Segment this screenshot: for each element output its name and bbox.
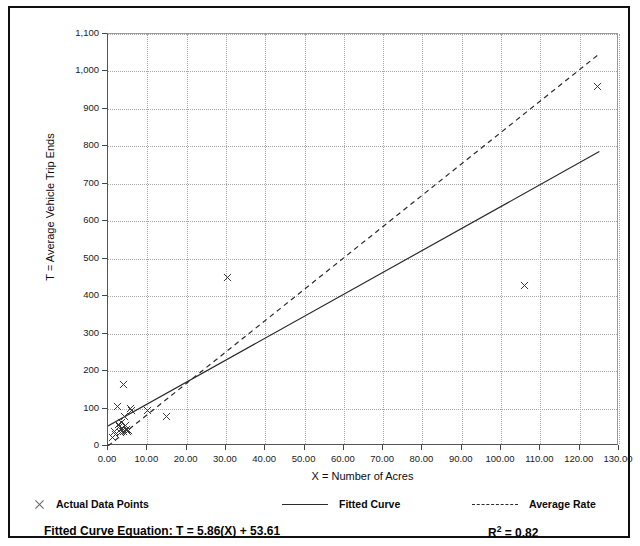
trend-lines-svg — [108, 34, 619, 446]
y-axis-tick-label-wrap: 1,100 — [48, 28, 99, 38]
x-axis-tick-label-wrap: 20.00 — [164, 453, 208, 465]
x-axis-tick-label: 40.00 — [242, 453, 286, 465]
y-axis-tick-label: 1,100 — [75, 28, 99, 38]
x-axis-tick-label-wrap: 30.00 — [203, 453, 247, 465]
fitted-curve-equation: Fitted Curve Equation: T = 5.86(X) + 53.… — [44, 524, 280, 538]
x-axis-tick-label: 90.00 — [439, 453, 483, 465]
chart-figure: 01002003004005006007008009001,0001,100 0… — [0, 0, 640, 546]
y-axis-tick-label: 0 — [94, 440, 99, 450]
figure-border: 01002003004005006007008009001,0001,100 0… — [8, 6, 630, 538]
x-marker-icon — [34, 499, 45, 510]
x-axis-tick-label: 30.00 — [203, 453, 247, 465]
x-axis-tick-label-wrap: 10.00 — [124, 453, 168, 465]
y-axis-tick-label: 100 — [83, 403, 99, 413]
fitted-curve-line — [108, 152, 599, 426]
x-axis-tick-label: 100.00 — [478, 453, 522, 465]
x-axis-tick-label-wrap: 110.00 — [517, 453, 561, 465]
y-axis-tick-label: 600 — [83, 215, 99, 225]
x-axis-tick-label-wrap: 130.00 — [596, 453, 640, 465]
y-axis-tick-label: 1,000 — [75, 65, 99, 75]
y-axis-tick-label-wrap: 200 — [48, 365, 99, 375]
legend-label: Average Rate — [529, 498, 596, 510]
legend-item[interactable]: Average Rate — [472, 492, 596, 516]
y-axis-tick-label-wrap: 300 — [48, 328, 99, 338]
x-axis-tick-label: 80.00 — [399, 453, 443, 465]
y-axis-tick-label: 300 — [83, 328, 99, 338]
x-axis-title: X = Number of Acres — [107, 470, 618, 482]
legend-label: Fitted Curve — [339, 498, 400, 510]
r-squared-value: = 0.82 — [501, 526, 538, 540]
equation-row: Fitted Curve Equation: T = 5.86(X) + 53.… — [20, 522, 622, 546]
r-squared-symbol: R — [488, 526, 497, 540]
x-axis-tick-label: 60.00 — [321, 453, 365, 465]
x-axis-tick-label: 20.00 — [164, 453, 208, 465]
y-axis-tick-label: 800 — [83, 140, 99, 150]
x-axis-tick-label-wrap: 60.00 — [321, 453, 365, 465]
x-axis-tick-label-wrap: 0.00 — [85, 453, 129, 465]
x-axis-tick-label-wrap: 40.00 — [242, 453, 286, 465]
legend-item[interactable]: Fitted Curve — [282, 492, 400, 516]
y-axis-title: T = Average Vehicle Trip Ends — [44, 87, 56, 327]
x-axis-tick-label-wrap: 90.00 — [439, 453, 483, 465]
x-axis-tick-label: 70.00 — [360, 453, 404, 465]
legend-label: Actual Data Points — [56, 498, 149, 510]
y-axis-tick-label: 900 — [83, 103, 99, 113]
dashed-line-swatch — [472, 504, 518, 505]
solid-line-swatch — [282, 504, 328, 505]
x-axis-tick-label-wrap: 120.00 — [557, 453, 601, 465]
x-axis-tick-label: 130.00 — [596, 453, 640, 465]
x-axis-tick-label-wrap: 50.00 — [282, 453, 326, 465]
y-axis-tick-label: 400 — [83, 290, 99, 300]
y-axis-tick-label-wrap: 0 — [48, 440, 99, 450]
x-axis-tick-label: 50.00 — [282, 453, 326, 465]
average-rate-line — [108, 54, 599, 446]
legend-item[interactable]: Actual Data Points — [34, 492, 149, 516]
x-axis-tick-label-wrap: 80.00 — [399, 453, 443, 465]
gridline-vertical — [619, 34, 620, 444]
x-axis-tick-label: 120.00 — [557, 453, 601, 465]
y-axis-tick-label-wrap: 100 — [48, 403, 99, 413]
y-axis-tick-label: 200 — [83, 365, 99, 375]
y-axis-tick-label-wrap: 1,000 — [48, 65, 99, 75]
x-axis-tick-label: 0.00 — [85, 453, 129, 465]
chart-legend: Actual Data PointsFitted CurveAverage Ra… — [20, 492, 622, 518]
x-axis-tick-label-wrap: 70.00 — [360, 453, 404, 465]
x-axis-tick-label: 110.00 — [517, 453, 561, 465]
x-axis-tick-label-wrap: 100.00 — [478, 453, 522, 465]
plot-area — [107, 33, 618, 445]
y-axis-tick-label: 700 — [83, 178, 99, 188]
x-axis-tick-label: 10.00 — [124, 453, 168, 465]
r-squared-annotation: R2 = 0.82 — [488, 524, 538, 540]
y-axis-tick-label: 500 — [83, 253, 99, 263]
